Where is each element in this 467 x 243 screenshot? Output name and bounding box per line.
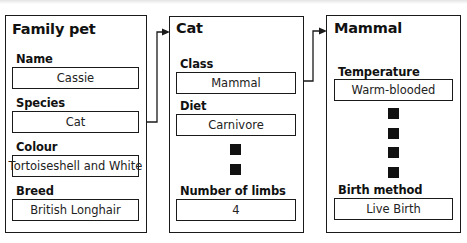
ellipsis-marker xyxy=(388,147,399,158)
card-cat: Cat Class Mammal Diet Carnivore Number o… xyxy=(169,16,304,233)
field-label-species: Species xyxy=(16,96,65,110)
field-name: Cassie xyxy=(12,67,139,89)
field-class: Mammal xyxy=(176,72,296,94)
field-diet: Carnivore xyxy=(176,114,296,136)
ellipsis-marker xyxy=(388,108,399,119)
ellipsis-marker xyxy=(388,167,399,178)
field-label-diet: Diet xyxy=(180,99,206,113)
ellipsis-marker xyxy=(230,164,241,175)
field-breed: British Longhair xyxy=(12,199,139,221)
field-label-name: Name xyxy=(16,52,53,66)
field-label-temperature: Temperature xyxy=(338,65,420,79)
field-species: Cat xyxy=(12,111,139,133)
field-colour: Tortoiseshell and White xyxy=(12,155,139,177)
field-birth-method: Live Birth xyxy=(334,198,453,220)
ellipsis-marker xyxy=(230,144,241,155)
field-label-birth-method: Birth method xyxy=(338,183,422,197)
field-temperature: Warm-blooded xyxy=(334,79,453,101)
field-label-colour: Colour xyxy=(16,140,57,154)
card-family-pet: Family pet Name Cassie Species Cat Colou… xyxy=(5,15,147,233)
card-title: Family pet xyxy=(12,21,96,37)
field-label-breed: Breed xyxy=(16,184,54,198)
card-title: Mammal xyxy=(334,20,402,36)
card-mammal: Mammal Temperature Warm-blooded Birth me… xyxy=(326,15,461,233)
field-label-number-of-limbs: Number of limbs xyxy=(180,184,286,198)
field-label-class: Class xyxy=(180,57,213,71)
top-edge-shade xyxy=(0,0,467,4)
card-title: Cat xyxy=(176,20,203,36)
ellipsis-marker xyxy=(388,128,399,139)
field-number-of-limbs: 4 xyxy=(176,199,296,221)
